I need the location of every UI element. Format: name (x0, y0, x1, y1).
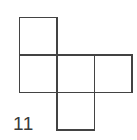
net-square-middle-left (20, 55, 58, 93)
net-square-top (20, 18, 58, 56)
net-square-middle-center (57, 55, 95, 93)
net-square-middle-right (95, 55, 133, 93)
figure-number-label: 11 (13, 114, 34, 134)
figure-screenshot: 11 (0, 0, 137, 140)
net-square-bottom (57, 93, 95, 131)
